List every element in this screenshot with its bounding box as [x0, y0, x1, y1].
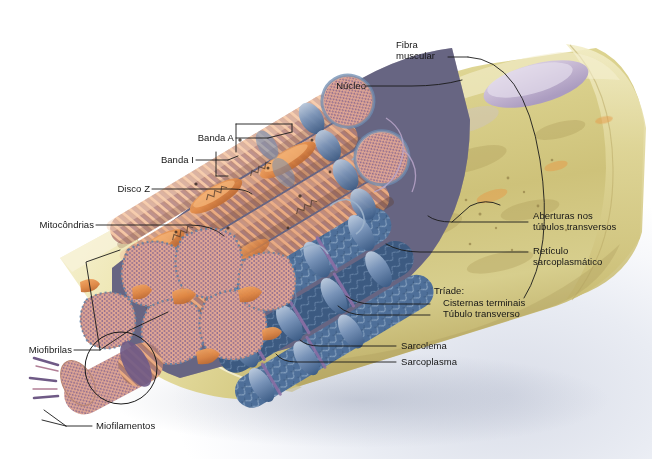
label-cisternas-terminais: Cisternas terminais [443, 298, 525, 309]
label-tubulo-transverso: Túbulo transverso [443, 309, 520, 320]
label-aberturas-tubulos: Aberturas nos túbulos transversos [533, 211, 616, 232]
label-banda-i: Banda I [116, 155, 194, 166]
label-triade: Tríade: [434, 286, 464, 297]
label-fibra-muscular: Fibra muscular [396, 40, 435, 61]
label-sarcolema: Sarcolema [401, 341, 447, 352]
label-miofibrilas: Miofibrilas [0, 345, 72, 356]
label-sarcoplasma: Sarcoplasma [401, 357, 457, 368]
label-reticulo-sarcoplasmatico: Retículo sarcoplasmático [533, 246, 602, 267]
label-disco-z: Disco Z [72, 184, 150, 195]
label-nucleo: Núcleo [266, 81, 366, 92]
figure-canvas: Fibra muscular Núcleo Banda A Banda I Di… [0, 0, 652, 459]
label-mitocondrias: Mitocôndrias [10, 220, 94, 231]
label-miofilamentos: Miofilamentos [96, 421, 155, 432]
label-banda-a: Banda A [156, 133, 234, 144]
